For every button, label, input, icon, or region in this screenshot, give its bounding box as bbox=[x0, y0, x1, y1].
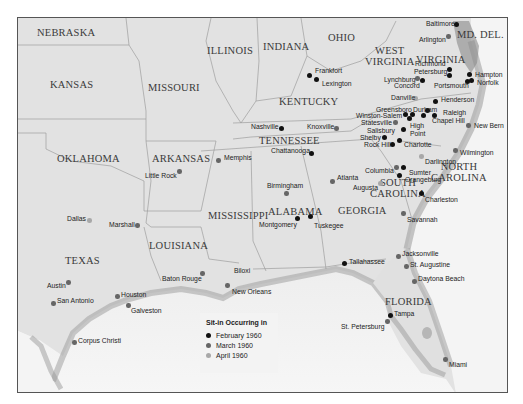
state-label: TEXAS bbox=[65, 255, 100, 266]
city-label: Austin bbox=[47, 282, 66, 290]
city-marker-icon bbox=[419, 154, 424, 159]
city-label: Raleigh bbox=[443, 109, 466, 117]
city-marker-icon bbox=[307, 73, 312, 78]
city-marker-icon bbox=[443, 357, 448, 362]
state-label: OKLAHOMA bbox=[57, 153, 120, 164]
city-marker-icon bbox=[419, 191, 424, 196]
legend: Sit-in Occurring in February 1960 March … bbox=[200, 313, 278, 373]
city-label: New Orleans bbox=[232, 288, 271, 296]
city-marker-icon bbox=[385, 319, 390, 324]
city-label: Memphis bbox=[224, 154, 252, 162]
city-label: Charleston bbox=[425, 196, 458, 204]
legend-item-march: March 1960 bbox=[206, 340, 272, 350]
city-marker-icon bbox=[87, 218, 92, 223]
city-marker-icon bbox=[401, 165, 406, 170]
city-label: St. Petersburg bbox=[341, 323, 384, 331]
city-label: Petersburg bbox=[414, 68, 447, 76]
legend-dot-icon bbox=[206, 333, 211, 338]
city-label: Wilmington bbox=[460, 149, 494, 157]
city-label: Frankfort bbox=[315, 67, 342, 75]
city-label: HighPoint bbox=[410, 122, 426, 138]
city-marker-icon bbox=[433, 99, 438, 104]
city-marker-icon bbox=[397, 138, 402, 143]
legend-label: April 1960 bbox=[216, 352, 248, 359]
city-marker-icon bbox=[126, 303, 131, 308]
city-marker-icon bbox=[447, 67, 452, 72]
city-marker-icon bbox=[225, 283, 230, 288]
city-label: Baton Rouge bbox=[162, 275, 202, 283]
city-marker-icon bbox=[279, 126, 284, 131]
state-label: OHIO bbox=[328, 32, 355, 43]
city-marker-icon bbox=[447, 73, 452, 78]
city-label: Arlington bbox=[419, 36, 446, 44]
city-label: Little Rock bbox=[145, 172, 177, 180]
city-marker-icon bbox=[421, 113, 426, 118]
state-label: WESTVIRGINIA bbox=[365, 45, 414, 67]
city-label: Rock Hill bbox=[364, 141, 391, 149]
city-label: Lexington bbox=[322, 80, 351, 88]
legend-dot-icon bbox=[206, 353, 211, 358]
city-marker-icon bbox=[115, 294, 120, 299]
city-label: Marshall bbox=[109, 221, 135, 229]
state-label: ARKANSAS bbox=[152, 153, 210, 164]
state-label: FLORIDA bbox=[385, 296, 432, 307]
city-label: Chapel Hill bbox=[432, 117, 465, 125]
city-marker-icon bbox=[401, 127, 406, 132]
legend-label: February 1960 bbox=[216, 332, 262, 339]
city-marker-icon bbox=[467, 72, 472, 77]
city-label: Columbia bbox=[365, 167, 394, 175]
city-label: Jacksonville bbox=[402, 250, 439, 258]
city-label: Tallahassee bbox=[349, 258, 385, 266]
city-marker-icon bbox=[401, 211, 406, 216]
city-marker-icon bbox=[396, 254, 401, 259]
city-label: Orangeburg bbox=[405, 176, 441, 184]
city-label: Corpus Christi bbox=[78, 337, 121, 345]
city-label: Montgomery bbox=[259, 221, 297, 229]
legend-item-february: February 1960 bbox=[206, 330, 272, 340]
city-label: Dallas bbox=[67, 215, 86, 223]
state-label: GEORGIA bbox=[338, 205, 387, 216]
city-label: Tuskegee bbox=[314, 222, 344, 230]
city-marker-icon bbox=[420, 78, 425, 83]
state-label: MISSISSIPPI bbox=[208, 210, 269, 221]
city-marker-icon bbox=[308, 214, 313, 219]
city-marker-icon bbox=[314, 77, 319, 82]
city-label: Baltimore bbox=[426, 20, 455, 28]
legend-label: March 1960 bbox=[216, 342, 253, 349]
city-marker-icon bbox=[216, 158, 221, 163]
city-label: Nashville bbox=[251, 123, 279, 131]
city-label: San Antonio bbox=[57, 297, 94, 305]
city-marker-icon bbox=[284, 191, 289, 196]
city-marker-icon bbox=[342, 261, 347, 266]
state-label: KENTUCKY bbox=[279, 96, 338, 107]
city-label: Darlington bbox=[425, 158, 456, 166]
city-marker-icon bbox=[466, 123, 471, 128]
state-label: KANSAS bbox=[50, 79, 93, 90]
city-marker-icon bbox=[330, 179, 335, 184]
state-label: LOUISIANA bbox=[149, 240, 208, 251]
legend-dot-icon bbox=[206, 343, 211, 348]
city-marker-icon bbox=[394, 165, 399, 170]
city-marker-icon bbox=[388, 313, 393, 318]
city-label: Charlotte bbox=[404, 141, 432, 149]
city-label: St. Augustine bbox=[410, 261, 450, 269]
city-label: Galveston bbox=[131, 307, 162, 315]
city-marker-icon bbox=[393, 120, 398, 125]
city-label: Daytona Beach bbox=[418, 275, 464, 283]
city-label: Statesville bbox=[361, 119, 392, 127]
city-label: Henderson bbox=[441, 96, 474, 104]
city-label: Richmond bbox=[415, 60, 446, 68]
city-label: Norfolk bbox=[477, 79, 499, 87]
city-label: Biloxi bbox=[234, 267, 250, 275]
city-label: Houston bbox=[121, 291, 146, 299]
city-label: Birmingham bbox=[267, 182, 303, 190]
city-marker-icon bbox=[177, 169, 182, 174]
state-label: TENNESSEE bbox=[259, 135, 320, 146]
city-marker-icon bbox=[397, 173, 402, 178]
city-marker-icon bbox=[334, 126, 339, 131]
city-marker-icon bbox=[382, 135, 387, 140]
city-label: Miami bbox=[449, 361, 467, 369]
city-marker-icon bbox=[51, 301, 56, 306]
legend-title: Sit-in Occurring in bbox=[206, 319, 272, 326]
city-label: Augusta bbox=[353, 184, 378, 192]
